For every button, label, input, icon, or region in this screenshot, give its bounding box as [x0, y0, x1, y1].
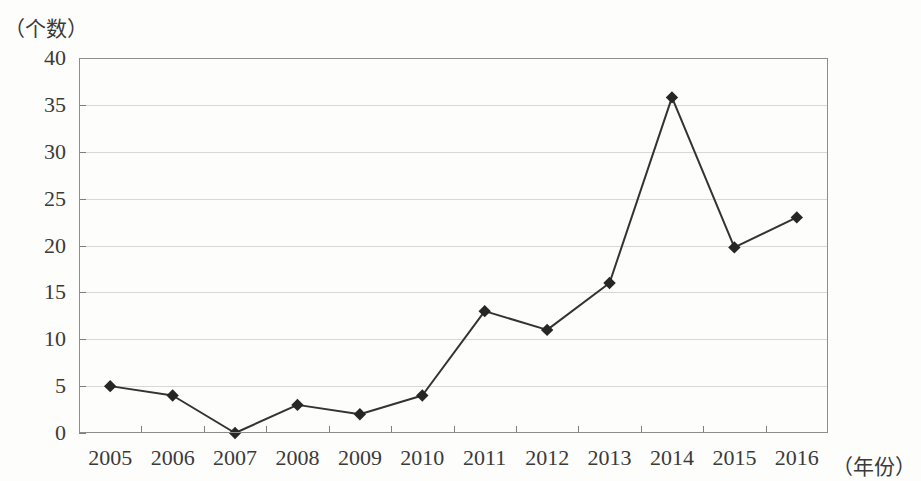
x-axis-tick-label: 2015 — [712, 447, 756, 469]
y-axis-tick-label: 5 — [55, 375, 66, 397]
y-axis-tick-label: 20 — [44, 235, 66, 257]
x-axis-unit-label: （年份） — [832, 450, 916, 480]
plot-area — [79, 58, 828, 433]
x-axis-tick-label: 2016 — [775, 447, 819, 469]
y-axis-unit-label: （个数） — [4, 12, 88, 42]
y-axis-tick-label: 10 — [44, 328, 66, 350]
x-axis-tick-label: 2007 — [213, 447, 257, 469]
y-axis-tick — [79, 433, 86, 434]
x-axis-tick-label: 2011 — [463, 447, 506, 469]
x-axis-tick-label-group: 2005200620072008200920102011201220132014… — [79, 447, 828, 481]
x-axis-tick-label: 2013 — [588, 447, 632, 469]
x-axis-tick-label: 2009 — [338, 447, 382, 469]
x-axis-tick-label: 2006 — [151, 447, 195, 469]
plot-frame-border — [79, 58, 828, 433]
y-axis-tick-label: 40 — [44, 47, 66, 69]
x-axis-tick-label: 2008 — [275, 447, 319, 469]
x-axis-tick-label: 2012 — [525, 447, 569, 469]
y-axis-tick-label-group: 0510152025303540 — [0, 58, 72, 433]
y-axis-tick-label: 0 — [55, 422, 66, 444]
y-axis-tick-label: 35 — [44, 94, 66, 116]
x-axis-tick-label: 2010 — [400, 447, 444, 469]
line-chart-figure: （个数） 0510152025303540 200520062007200820… — [0, 0, 921, 481]
y-axis-tick-label: 30 — [44, 141, 66, 163]
y-axis-tick-label: 25 — [44, 188, 66, 210]
x-axis-tick-label: 2014 — [650, 447, 694, 469]
y-axis-tick-label: 15 — [44, 281, 66, 303]
x-axis-tick-label: 2005 — [88, 447, 132, 469]
